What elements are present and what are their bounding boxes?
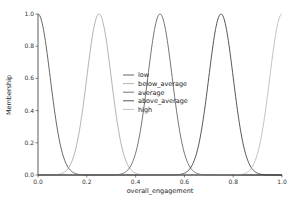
legend-label-low: low [138, 71, 150, 79]
y-tick-label: 0.2 [24, 139, 34, 146]
x-tick-label: 0.0 [33, 178, 43, 185]
x-ticks: 0.00.20.40.60.81.0 [33, 175, 287, 185]
y-ticks: 0.00.20.40.60.81.0 [24, 10, 38, 178]
y-axis-label: Membership [5, 75, 13, 115]
y-tick-label: 0.4 [24, 107, 34, 114]
legend: lowbelow_averageaverageabove_averagehigh [123, 71, 188, 113]
x-tick-label: 1.0 [277, 178, 287, 185]
legend-label-high: high [138, 106, 152, 114]
y-tick-label: 0.6 [24, 74, 34, 81]
x-tick-label: 0.2 [82, 178, 92, 185]
x-tick-label: 0.4 [131, 178, 141, 185]
x-tick-label: 0.6 [180, 178, 190, 185]
legend-label-average: average [138, 89, 165, 97]
legend-label-below-average: below_average [138, 80, 187, 88]
legend-label-above-average: above_average [138, 97, 188, 105]
x-tick-label: 0.8 [228, 178, 238, 185]
y-tick-label: 0.8 [24, 42, 34, 49]
membership-chart: 0.00.20.40.60.81.0 0.00.20.40.60.81.0 ov… [0, 0, 299, 203]
y-tick-label: 1.0 [24, 10, 34, 17]
x-axis-label: overall_engagement [127, 187, 194, 195]
y-tick-label: 0.0 [24, 171, 34, 178]
